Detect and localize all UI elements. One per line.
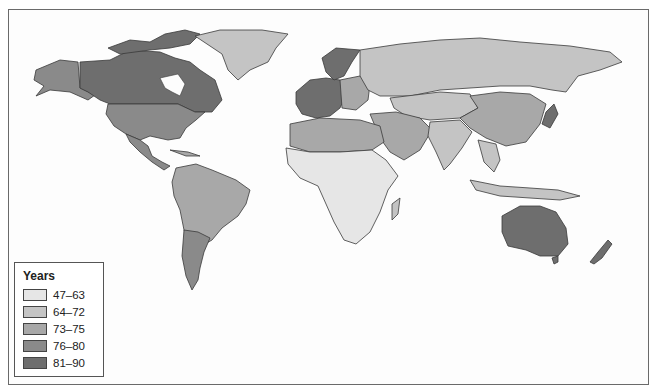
map-legend: Years 47–63 64–72 73–75 76–80 81–90 <box>14 262 104 377</box>
legend-label: 81–90 <box>53 357 85 369</box>
legend-label: 47–63 <box>53 289 85 301</box>
region-argentina-chile <box>182 230 210 290</box>
region-greenland <box>195 30 288 80</box>
legend-item: 73–75 <box>23 320 103 337</box>
legend-item: 64–72 <box>23 303 103 320</box>
region-madagascar <box>392 198 400 220</box>
legend-swatch <box>23 306 47 318</box>
legend-title: Years <box>23 269 103 283</box>
legend-item: 76–80 <box>23 337 103 354</box>
legend-swatch <box>23 357 47 369</box>
legend-item: 81–90 <box>23 354 103 371</box>
region-indonesia <box>470 180 580 200</box>
legend-label: 64–72 <box>53 306 85 318</box>
legend-swatch <box>23 323 47 335</box>
region-tasmania <box>552 256 558 264</box>
region-southeast-asia <box>478 140 500 172</box>
legend-item: 47–63 <box>23 286 103 303</box>
legend-label: 73–75 <box>53 323 85 335</box>
region-caribbean <box>170 150 200 156</box>
region-russia <box>360 38 622 96</box>
region-mexico <box>126 134 170 170</box>
legend-swatch <box>23 340 47 352</box>
region-india <box>428 120 472 170</box>
legend-label: 76–80 <box>53 340 85 352</box>
region-scandinavia <box>322 48 360 80</box>
region-australia <box>502 206 568 256</box>
region-usa <box>106 104 205 140</box>
region-arctic-islands <box>108 30 200 54</box>
region-canada <box>80 50 222 112</box>
legend-swatch <box>23 289 47 301</box>
region-western-europe <box>296 78 346 118</box>
region-china <box>460 92 546 146</box>
region-sub-saharan-africa <box>286 148 398 244</box>
region-north-africa <box>290 118 384 152</box>
region-new-zealand <box>590 240 612 264</box>
